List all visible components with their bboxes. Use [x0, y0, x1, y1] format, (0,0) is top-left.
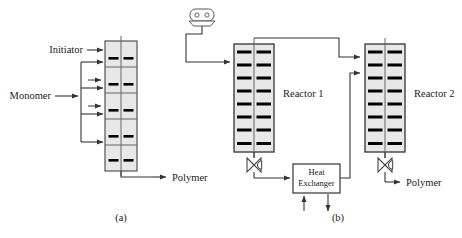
- heat-exchanger: Heat Exchanger: [293, 164, 340, 211]
- caption-a: (a): [115, 212, 127, 224]
- process-flow-figure: Initiator Monomer Polymer (a): [0, 0, 462, 238]
- panel-b-polymer-label: Polymer: [406, 177, 442, 188]
- panel-a-polymer-outlet: [121, 171, 166, 177]
- heat-exchanger-label-line1: Heat: [308, 167, 325, 177]
- reactor-1: [234, 38, 274, 158]
- monomer-label: Monomer: [10, 90, 52, 101]
- pump-icon: [189, 9, 215, 26]
- panel-a-group: Initiator Monomer Polymer (a): [10, 36, 209, 224]
- reactor-2: [365, 38, 405, 158]
- caption-b: (b): [332, 212, 345, 224]
- figure-canvas: Initiator Monomer Polymer (a): [0, 0, 462, 238]
- control-valve-icon: [378, 158, 393, 172]
- hx-to-reactor-2-line: [340, 73, 360, 178]
- control-valve-icon: [247, 158, 262, 172]
- pump-discharge-line: [186, 26, 230, 62]
- initiator-label: Initiator: [49, 44, 83, 55]
- panel-b-group: Reactor 1 Heat Exchanger: [186, 9, 455, 224]
- reactor-1-label: Reactor 1: [283, 88, 324, 99]
- panel-a-column: [105, 36, 137, 176]
- heat-exchanger-label-line2: Exchanger: [298, 178, 335, 188]
- reactor-2-label: Reactor 2: [414, 88, 455, 99]
- monomer-feed-network: [55, 62, 103, 142]
- panel-a-polymer-label: Polymer: [172, 172, 208, 183]
